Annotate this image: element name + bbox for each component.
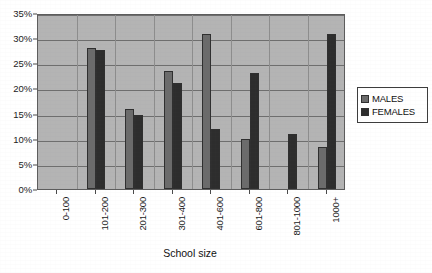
x-tick-label: 401-600 bbox=[214, 197, 225, 230]
y-tick-label: 35% bbox=[0, 9, 32, 19]
bar-females-201-300 bbox=[134, 115, 143, 189]
x-tick-mark bbox=[326, 190, 327, 194]
y-tick-label: 0% bbox=[0, 185, 32, 195]
chart-legend: MALES FEMALES bbox=[357, 87, 428, 123]
y-tick-label: 20% bbox=[0, 85, 32, 95]
x-tick-label: 301-400 bbox=[176, 197, 187, 230]
males-swatch-icon bbox=[361, 95, 369, 103]
bar-females-801-1000 bbox=[288, 134, 297, 189]
x-tick-mark bbox=[172, 190, 173, 194]
y-tick-label: 15% bbox=[0, 110, 32, 120]
legend-label-males: MALES bbox=[372, 94, 403, 104]
y-tick-label: 5% bbox=[0, 160, 32, 170]
bar-males-1000+ bbox=[318, 147, 327, 189]
y-tick-label: 10% bbox=[0, 135, 32, 145]
x-tick-label: 201-300 bbox=[137, 197, 148, 230]
legend-item-females: FEMALES bbox=[361, 105, 424, 118]
bar-females-401-600 bbox=[211, 129, 220, 189]
plot-area bbox=[37, 14, 345, 190]
bar-chart-figure: 0%5%10%15%20%25%30%35% 0-100101-200201-3… bbox=[0, 0, 432, 273]
x-tick-mark bbox=[287, 190, 288, 194]
bar-males-401-600 bbox=[202, 34, 211, 189]
x-tick-label: 101-200 bbox=[99, 197, 110, 230]
bar-males-101-200 bbox=[87, 48, 96, 189]
x-tick-label: 801-1000 bbox=[291, 197, 302, 236]
bars-layer bbox=[38, 15, 344, 189]
x-axis-title: School size bbox=[100, 247, 280, 259]
x-tick-label: 0-100 bbox=[60, 197, 71, 220]
legend-label-females: FEMALES bbox=[372, 107, 415, 117]
females-swatch-icon bbox=[361, 108, 369, 116]
bar-males-201-300 bbox=[125, 109, 134, 189]
x-tick-label: 601-800 bbox=[253, 197, 264, 230]
x-tick-mark bbox=[249, 190, 250, 194]
x-tick-mark bbox=[56, 190, 57, 194]
bar-females-1000+ bbox=[327, 34, 336, 189]
bar-females-301-400 bbox=[173, 83, 182, 189]
x-tick-mark bbox=[133, 190, 134, 194]
x-tick-mark bbox=[210, 190, 211, 194]
legend-item-males: MALES bbox=[361, 92, 424, 105]
bar-males-601-800 bbox=[241, 139, 250, 189]
bar-females-601-800 bbox=[250, 73, 259, 189]
y-axis: 0%5%10%15%20%25%30%35% bbox=[0, 14, 32, 190]
y-tick-label: 30% bbox=[0, 34, 32, 44]
bar-males-301-400 bbox=[164, 71, 173, 189]
x-tick-label: 1000+ bbox=[330, 197, 341, 223]
x-axis: 0-100101-200201-300301-400401-600601-800… bbox=[37, 190, 345, 242]
bar-females-101-200 bbox=[96, 50, 105, 189]
y-tick-label: 25% bbox=[0, 60, 32, 70]
x-tick-mark bbox=[95, 190, 96, 194]
